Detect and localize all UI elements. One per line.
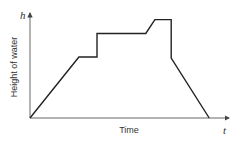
x-axis-label: Time bbox=[119, 125, 139, 135]
height-line bbox=[30, 20, 209, 118]
water-height-chart: h t Time Height of water bbox=[0, 0, 244, 147]
y-axis-label: Height of water bbox=[9, 37, 19, 98]
y-axis-symbol: h bbox=[20, 9, 26, 21]
x-axis-symbol: t bbox=[223, 124, 227, 136]
